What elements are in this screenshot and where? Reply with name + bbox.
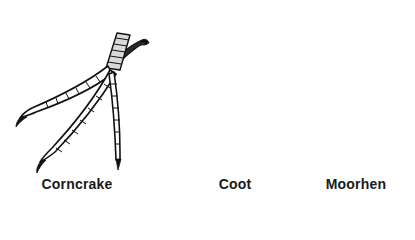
caption-coot: Coot xyxy=(175,176,295,192)
caption-corncrake: Corncrake xyxy=(17,176,137,192)
corncrake-foot-drawing xyxy=(16,33,149,173)
caption-moorhen: Moorhen xyxy=(296,176,415,192)
